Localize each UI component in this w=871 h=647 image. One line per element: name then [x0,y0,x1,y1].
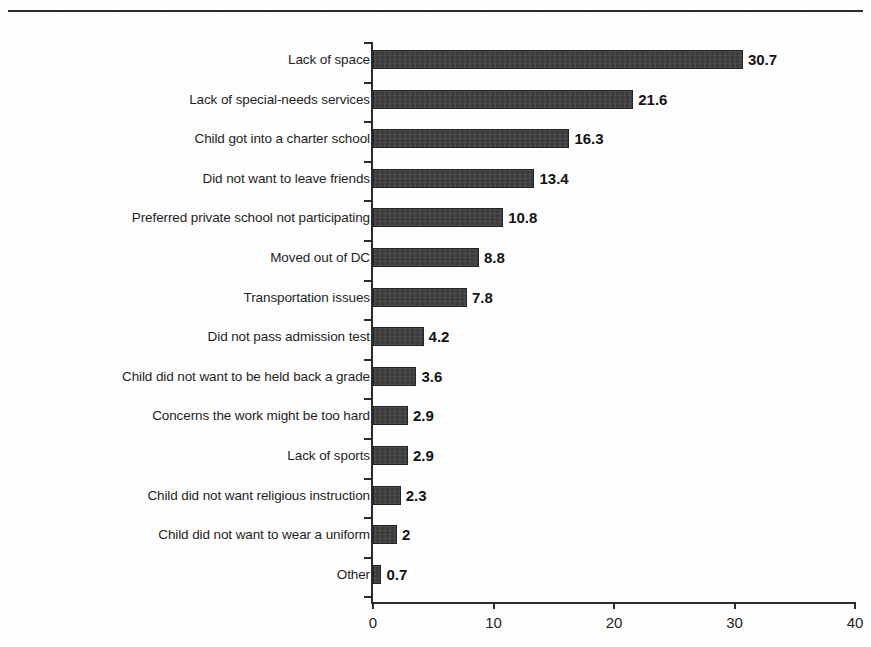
bar-value-label: 10.8 [508,210,537,225]
y-axis-tick [364,359,372,361]
x-axis-tick [854,602,856,609]
bar-value-label: 4.2 [429,329,450,344]
y-axis-spine [371,42,373,604]
category-label: Lack of special-needs services [189,93,370,107]
bar-value-label: 16.3 [574,131,603,146]
category-label: Lack of sports [287,449,370,463]
category-label: Concerns the work might be too hard [152,409,370,423]
category-label: Transportation issues [244,291,370,305]
bar-value-label: 0.7 [386,567,407,582]
bar [373,129,569,148]
category-label: Lack of space [288,53,370,67]
bar [373,525,397,544]
y-axis-tick [364,161,372,163]
category-label: Preferred private school not participati… [132,211,370,225]
bar [373,248,479,267]
x-axis-tick-label: 10 [485,614,502,631]
y-axis-tick [364,280,372,282]
category-label: Child did not want to wear a uniform [158,528,370,542]
y-axis-tick [364,398,372,400]
category-label: Other [337,568,370,582]
x-axis-tick-label: 30 [726,614,743,631]
bar [373,486,401,505]
bar-value-label: 8.8 [484,250,505,265]
bar-value-label: 13.4 [539,171,568,186]
x-axis-tick [734,602,736,609]
y-axis-tick [364,42,372,44]
y-axis-tick [364,240,372,242]
x-axis-tick [493,602,495,609]
category-label: Did not pass admission test [208,330,370,344]
x-axis-tick-label: 20 [606,614,623,631]
x-axis-tick-label: 40 [847,614,864,631]
x-axis-tick [372,602,374,609]
y-axis-tick [364,121,372,123]
chart-figure: Lack of space30.7Lack of special-needs s… [0,0,871,647]
category-label: Moved out of DC [270,251,370,265]
category-label: Child did not want religious instruction [147,489,370,503]
bar [373,50,743,69]
y-axis-tick [364,596,372,598]
bar [373,406,408,425]
x-axis-tick-label: 0 [369,614,377,631]
category-label: Child got into a charter school [195,132,371,146]
y-axis-tick [364,517,372,519]
bar [373,446,408,465]
category-label: Did not want to leave friends [203,172,370,186]
bar [373,367,416,386]
bar [373,288,467,307]
bar [373,90,633,109]
bar [373,169,534,188]
bar-value-label: 3.6 [421,369,442,384]
bar-value-label: 30.7 [748,52,777,67]
y-axis-tick [364,319,372,321]
y-axis-tick [364,557,372,559]
bar [373,565,381,584]
bar [373,327,424,346]
bar-value-label: 2 [402,527,410,542]
y-axis-tick [364,200,372,202]
category-label: Child did not want to be held back a gra… [122,370,370,384]
bar-value-label: 7.8 [472,290,493,305]
y-axis-tick [364,82,372,84]
bar-value-label: 2.9 [413,408,434,423]
y-axis-tick [364,478,372,480]
bar-value-label: 21.6 [638,92,667,107]
y-axis-tick [364,438,372,440]
x-axis-tick [613,602,615,609]
bar [373,208,503,227]
bar-value-label: 2.9 [413,448,434,463]
bar-value-label: 2.3 [406,488,427,503]
